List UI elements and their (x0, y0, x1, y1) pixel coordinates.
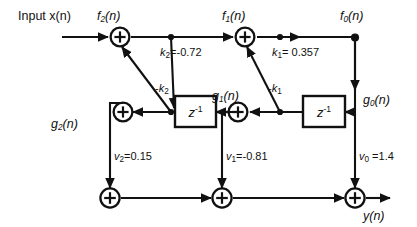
delay-block-right: z-1 (303, 96, 345, 127)
adder-f1 (236, 28, 255, 47)
input-label: Input x(n) (18, 9, 71, 23)
adder-f2 (111, 28, 130, 47)
label-k1: k1= 0.357 (272, 46, 319, 60)
adder-output-1 (100, 188, 119, 207)
label-f1: f1(n) (222, 9, 245, 24)
lattice-ladder-filter-diagram: z-1 z-1 (0, 0, 417, 227)
label-g0: g0(n) (363, 93, 390, 108)
branch-node-g2-tap (168, 109, 174, 115)
label-neg-k1: -k1 (268, 82, 282, 96)
label-neg-k2: -k2 (155, 82, 169, 96)
delay-block-left: z-1 (175, 96, 216, 127)
label-v2: v2=0.15 (114, 150, 152, 164)
label-g2: g2(n) (51, 117, 78, 132)
label-v0: v0 =1.4 (359, 150, 394, 164)
adder-output-2 (212, 188, 231, 207)
diagram-canvas: z-1 z-1 (0, 0, 417, 227)
label-output: y(n) (362, 209, 385, 223)
label-v1: v1=-0.81 (226, 150, 268, 164)
label-g1: g1(n) (212, 89, 239, 104)
label-k2: k2=-0.72 (160, 46, 202, 60)
branch-node-f0-tap (277, 34, 283, 40)
adder-g2 (114, 103, 133, 122)
adder-output-3 (345, 188, 364, 207)
label-f2: f2(n) (97, 9, 120, 24)
branch-node-g1-tap (277, 109, 283, 115)
label-f0: f0(n) (340, 9, 363, 24)
